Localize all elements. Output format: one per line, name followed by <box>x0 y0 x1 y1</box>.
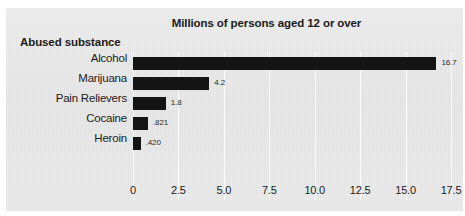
category-labels: AlcoholMarijuanaPain RelieversCocaineHer… <box>6 52 127 200</box>
bar[interactable] <box>133 57 436 70</box>
category-label: Pain Relievers <box>7 92 127 104</box>
chart-title: Millions of persons aged 12 or over <box>6 17 463 29</box>
bar[interactable] <box>133 77 209 90</box>
category-axis-title: Abused substance <box>20 36 121 48</box>
bar-row[interactable]: 16.7 <box>133 54 451 74</box>
x-tick-label: 2.5 <box>171 184 186 196</box>
gridline <box>451 52 452 200</box>
chart-figure: Millions of persons aged 12 or over Abus… <box>6 8 463 211</box>
bar-row[interactable]: 4.2 <box>133 74 451 94</box>
x-axis-tick-labels: 02.55.07.510.012.515.017.5 <box>133 184 463 200</box>
category-label: Alcohol <box>7 52 127 64</box>
bar[interactable] <box>133 117 148 130</box>
x-tick-label: 10.0 <box>304 184 325 196</box>
x-tick-label: 5.0 <box>216 184 231 196</box>
x-tick-label: 7.5 <box>262 184 277 196</box>
bar-row[interactable]: 1.8 <box>133 94 451 114</box>
bar-value-label: .420 <box>146 138 161 147</box>
category-label: Cocaine <box>7 112 127 124</box>
bar-row[interactable]: .420 <box>133 134 451 154</box>
bar-value-label: 4.2 <box>214 78 225 87</box>
x-tick-label: 0 <box>130 184 136 196</box>
bar-row[interactable]: .821 <box>133 114 451 134</box>
x-tick-label: 17.5 <box>441 184 462 196</box>
x-tick-label: 15.0 <box>395 184 416 196</box>
x-tick-label: 12.5 <box>350 184 371 196</box>
bar[interactable] <box>133 137 141 150</box>
category-label: Heroin <box>7 132 127 144</box>
plot-area: 16.74.21.8.821.420 <box>133 52 458 200</box>
bar-value-label: .821 <box>153 118 168 127</box>
bar-value-label: 16.7 <box>441 58 456 67</box>
bar-value-label: 1.8 <box>171 98 182 107</box>
category-label: Marijuana <box>7 72 127 84</box>
bar[interactable] <box>133 97 166 110</box>
